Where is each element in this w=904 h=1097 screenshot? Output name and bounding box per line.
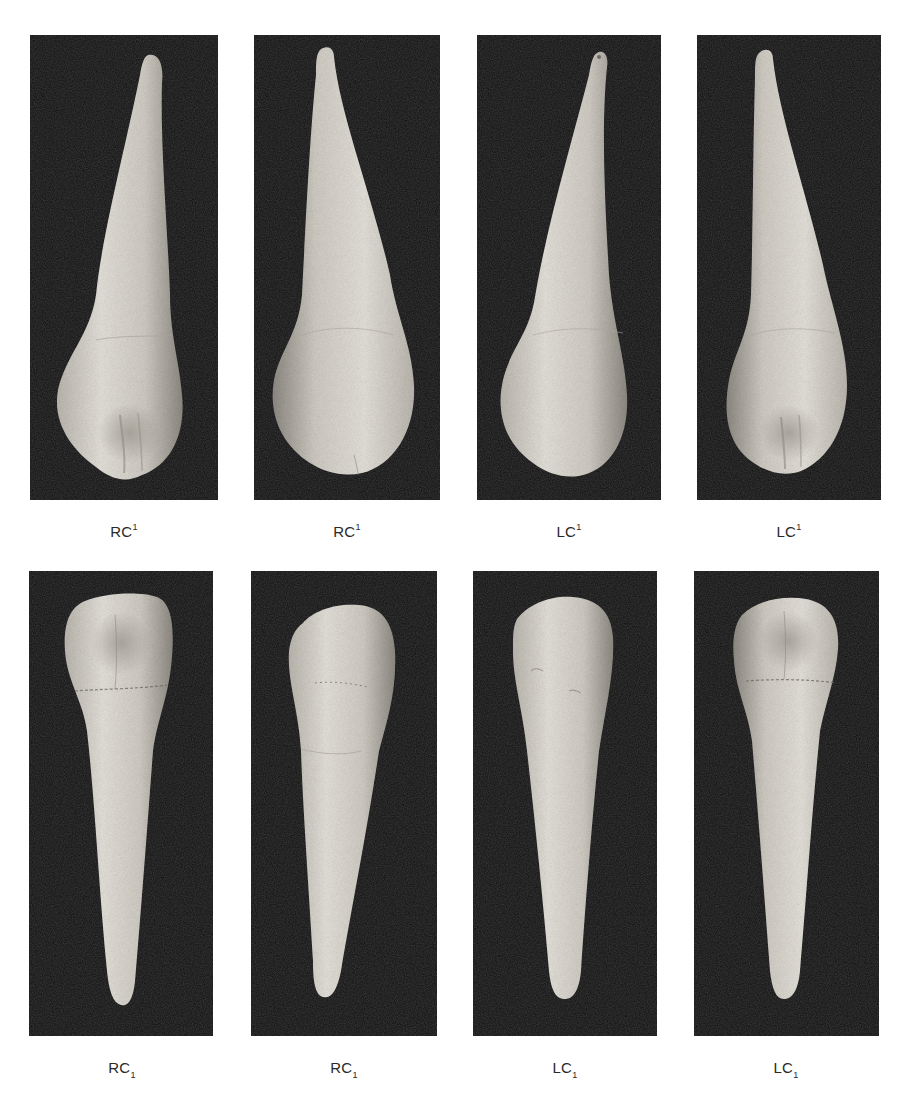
- label-index: 1: [796, 522, 801, 532]
- label-base: LC: [552, 1059, 572, 1076]
- mandibular-canine-labial-image: [251, 571, 437, 1036]
- tooth-photo-panel: [473, 571, 657, 1036]
- tooth-label: RC1: [255, 523, 439, 541]
- label-base: RC: [110, 523, 132, 540]
- label-index: 1: [572, 1070, 577, 1080]
- label-base: LC: [776, 523, 796, 540]
- label-base: LC: [773, 1059, 793, 1076]
- label-index: 1: [132, 522, 137, 532]
- label-index: 1: [352, 1070, 357, 1080]
- tooth-photo-panel: [29, 571, 213, 1036]
- label-index: 1: [793, 1070, 798, 1080]
- label-index: 1: [355, 522, 360, 532]
- label-index: 1: [576, 522, 581, 532]
- mandibular-canine-lingual-image: [694, 571, 879, 1036]
- tooth-photo-panel: [694, 571, 879, 1036]
- maxillary-canine-lingual-image: [697, 35, 881, 500]
- maxillary-canine-lingual-image: [30, 35, 218, 500]
- tooth-photo-panel: [254, 35, 440, 500]
- tooth-photo-panel: [30, 35, 218, 500]
- maxillary-canine-labial-image: [477, 35, 661, 500]
- tooth-label: LC1: [697, 523, 881, 541]
- label-base: RC: [330, 1059, 352, 1076]
- mandibular-canine-labial-image: [473, 571, 657, 1036]
- label-base: RC: [108, 1059, 130, 1076]
- maxillary-canine-labial-image: [254, 35, 440, 500]
- tooth-label: LC1: [694, 1059, 878, 1077]
- mandibular-canine-lingual-image: [29, 571, 213, 1036]
- tooth-label: RC1: [252, 1059, 436, 1077]
- label-base: LC: [556, 523, 576, 540]
- tooth-photo-panel: [477, 35, 661, 500]
- label-base: RC: [333, 523, 355, 540]
- label-index: 1: [130, 1070, 135, 1080]
- tooth-photo-panel: [697, 35, 881, 500]
- tooth-label: LC1: [473, 1059, 657, 1077]
- tooth-label: RC1: [32, 523, 216, 541]
- tooth-label: RC1: [30, 1059, 214, 1077]
- tooth-photo-panel: [251, 571, 437, 1036]
- tooth-label: LC1: [477, 523, 661, 541]
